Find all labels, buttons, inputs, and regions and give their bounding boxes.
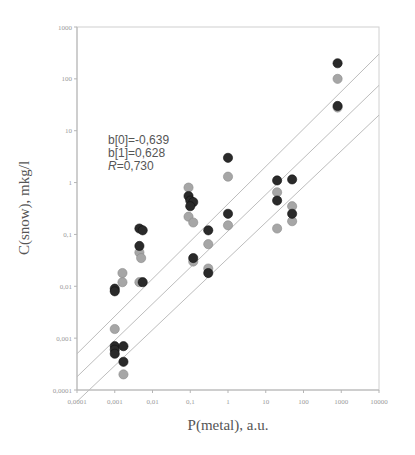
data-point-dark [223, 209, 232, 218]
y-tick-label: 1 [69, 179, 73, 187]
data-point-light [333, 74, 342, 83]
data-point-dark [223, 153, 232, 162]
y-tick-label: 0,001 [56, 335, 72, 343]
x-tick-label: 10 [262, 398, 270, 406]
data-point-light [273, 188, 282, 197]
y-axis-title: C(snow), mkg/l [16, 161, 33, 255]
data-point-dark [119, 342, 128, 351]
x-tick-label: 10000 [370, 398, 388, 406]
data-point-light [118, 268, 127, 277]
regression-line-upper [77, 54, 379, 354]
data-point-dark [110, 287, 119, 296]
y-tick-label: 0,1 [63, 231, 72, 239]
data-point-dark [135, 241, 144, 250]
x-tick-label: 0,0001 [67, 398, 87, 406]
annotation-b1: b[1]=0,628 [108, 146, 165, 160]
y-tick-label: 0,0001 [53, 387, 73, 395]
data-points [110, 59, 342, 379]
data-point-dark [119, 357, 128, 366]
data-point-light [137, 253, 146, 262]
scatter-chart: 0,00010,0010,010,11101001000100000,00010… [0, 0, 415, 455]
x-tick-label: 100 [298, 398, 309, 406]
x-axis-title: P(metal), a.u. [188, 417, 269, 434]
data-point-light [110, 324, 119, 333]
y-tick-label: 10 [65, 127, 73, 135]
x-tick-label: 1 [226, 398, 230, 406]
data-point-dark [110, 349, 119, 358]
x-tick-label: 0,01 [146, 398, 159, 406]
data-point-dark [204, 268, 213, 277]
data-point-light [189, 218, 198, 227]
data-point-dark [288, 175, 297, 184]
data-point-light [223, 172, 232, 181]
y-tick-label: 0,01 [60, 283, 73, 291]
data-point-dark [273, 196, 282, 205]
data-point-light [118, 278, 127, 287]
data-point-dark [189, 253, 198, 262]
annotation-r: R=0,730 [108, 159, 154, 173]
data-point-dark [138, 278, 147, 287]
data-point-dark [333, 101, 342, 110]
x-tick-label: 0,001 [107, 398, 123, 406]
data-point-light [223, 221, 232, 230]
data-point-dark [204, 226, 213, 235]
data-point-light [204, 240, 213, 249]
data-point-dark [273, 176, 282, 185]
data-point-dark [288, 209, 297, 218]
data-point-dark [138, 226, 147, 235]
regression-annotation: b[0]=-0,639 b[1]=0,628 R=0,730 [108, 133, 169, 173]
x-tick-label: 0,1 [186, 398, 195, 406]
data-point-dark [186, 202, 195, 211]
data-point-dark [333, 59, 342, 68]
annotation-b0: b[0]=-0,639 [108, 133, 169, 147]
data-point-light [119, 370, 128, 379]
regression-line-fit [77, 85, 379, 376]
data-point-light [184, 183, 193, 192]
data-point-light [273, 224, 282, 233]
y-tick-label: 1000 [58, 24, 73, 32]
x-tick-label: 1000 [334, 398, 349, 406]
y-tick-label: 100 [62, 75, 73, 83]
